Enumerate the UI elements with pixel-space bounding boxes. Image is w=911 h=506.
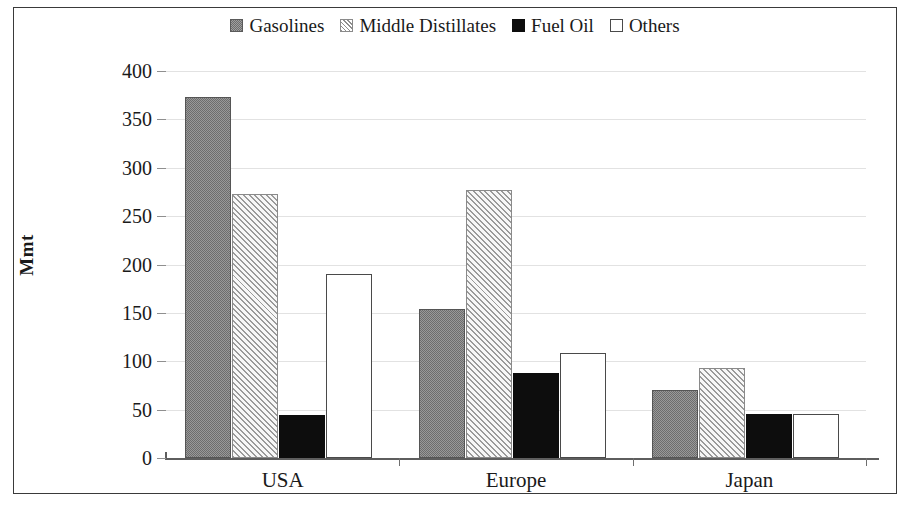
y-axis-tick-label: 200 <box>96 255 152 275</box>
legend-item-fuel_oil[interactable]: Fuel Oil <box>512 16 594 35</box>
y-axis-tick-mark <box>157 119 166 120</box>
y-axis-tick-mark <box>157 265 166 266</box>
y-axis-tick-label: 100 <box>96 351 152 371</box>
bar-others-japan <box>793 414 839 458</box>
bar-gasolines-japan <box>652 390 698 458</box>
x-axis-label-usa: USA <box>203 470 363 491</box>
bar-others-usa <box>326 274 372 458</box>
y-axis-title: Mmt <box>16 234 38 276</box>
y-axis-tick-mark <box>157 168 166 169</box>
bar-middle_distillates-europe <box>466 190 512 458</box>
legend-label: Fuel Oil <box>531 16 594 35</box>
bar-gasolines-europe <box>419 309 465 458</box>
gridline <box>166 119 866 120</box>
y-axis-tick-mark <box>157 313 166 314</box>
y-axis-tick-label: 50 <box>96 400 152 420</box>
legend-swatch-gasolines-icon <box>230 19 243 32</box>
bar-fuel_oil-europe <box>513 373 559 458</box>
y-axis-tick-label: 0 <box>96 448 152 468</box>
y-axis-tick-label: 300 <box>96 158 152 178</box>
bar-others-europe <box>560 353 606 458</box>
legend-item-gasolines[interactable]: Gasolines <box>230 16 324 35</box>
legend-label: Middle Distillates <box>359 16 496 35</box>
y-axis-tick-label: 250 <box>96 206 152 226</box>
chart-frame: GasolinesMiddle DistillatesFuel OilOther… <box>13 7 897 494</box>
legend-swatch-fuel_oil-icon <box>512 19 525 32</box>
bar-middle_distillates-japan <box>699 368 745 458</box>
y-axis-tick-mark <box>157 216 166 217</box>
chart-legend: GasolinesMiddle DistillatesFuel OilOther… <box>14 16 896 35</box>
gridline <box>166 71 866 72</box>
legend-swatch-others-icon <box>610 19 623 32</box>
y-axis-tick-mark <box>157 71 166 72</box>
y-axis-tick-mark <box>157 458 166 459</box>
bar-gasolines-usa <box>185 97 231 458</box>
y-axis-tick-label: 150 <box>96 303 152 323</box>
x-axis-label-europe: Europe <box>436 470 596 491</box>
y-axis-tick-label: 400 <box>96 61 152 81</box>
legend-label: Gasolines <box>249 16 324 35</box>
plot-area <box>166 71 866 458</box>
x-axis-tick-mark <box>633 458 634 466</box>
bar-fuel_oil-japan <box>746 414 792 458</box>
x-axis-label-japan: Japan <box>669 470 829 491</box>
legend-swatch-middle_distillates-icon <box>340 19 353 32</box>
y-axis-tick-label: 350 <box>96 109 152 129</box>
legend-label: Others <box>629 16 680 35</box>
y-axis-tick-mark <box>157 361 166 362</box>
y-axis-tick-mark <box>157 410 166 411</box>
bar-fuel_oil-usa <box>279 415 325 458</box>
legend-item-others[interactable]: Others <box>610 16 680 35</box>
x-axis-line <box>166 458 879 460</box>
legend-item-middle_distillates[interactable]: Middle Distillates <box>340 16 496 35</box>
y-axis-tick-labels: 050100150200250300350400 <box>96 71 152 458</box>
x-axis-tick-mark <box>399 458 400 466</box>
bar-middle_distillates-usa <box>232 194 278 458</box>
gridline <box>166 168 866 169</box>
x-axis-tick-mark <box>866 458 867 466</box>
